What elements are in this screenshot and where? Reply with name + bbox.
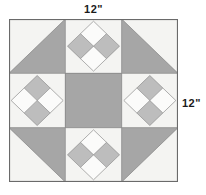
cell-middle-left bbox=[9, 73, 65, 127]
cell-center-square bbox=[65, 73, 121, 127]
right-dimension-label: 12" bbox=[182, 98, 201, 109]
cell-top-left bbox=[9, 19, 65, 73]
cell-top-center bbox=[65, 19, 121, 73]
cell-top-right bbox=[122, 19, 178, 73]
top-dimension-label: 12" bbox=[9, 4, 178, 15]
quilt-diagram: 12" 12" bbox=[0, 0, 206, 195]
cell-middle-right bbox=[122, 73, 178, 127]
cell-center bbox=[65, 73, 121, 127]
quilt-block-svg bbox=[9, 19, 178, 182]
cell-bottom-left bbox=[9, 128, 65, 182]
quilt-block bbox=[9, 19, 178, 182]
cell-bottom-center bbox=[65, 128, 121, 182]
cell-bottom-right bbox=[122, 128, 178, 182]
